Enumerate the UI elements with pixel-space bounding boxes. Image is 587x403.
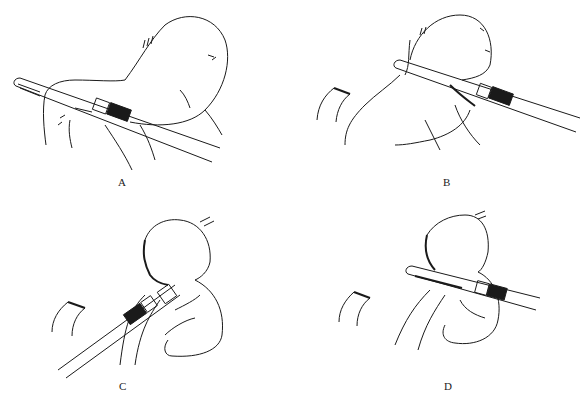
panel-label-b: B [443,176,450,188]
panel-label-c: C [119,380,126,392]
stomach-stapler-drawing-b [290,0,587,200]
stomach-stapler-drawing-a [0,0,290,200]
stomach-stapler-drawing-c [0,200,290,403]
panel-b: B [290,0,587,200]
panel-d: D [290,200,587,403]
stomach-stapler-drawing-d [290,200,587,403]
panel-label-a: A [118,176,126,188]
panel-a: A [0,0,290,200]
panel-label-d: D [444,380,452,392]
panel-c: C [0,200,290,403]
